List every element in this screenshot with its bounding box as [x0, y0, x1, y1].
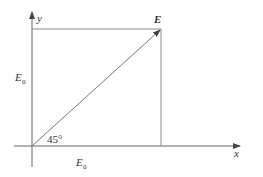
- bottom-component-label: E 0: [75, 156, 87, 171]
- svg-text:E: E: [14, 71, 22, 83]
- svg-text:0: 0: [83, 163, 87, 171]
- y-axis-label: y: [36, 12, 42, 24]
- vector-e-arrow: [32, 30, 160, 146]
- vector-diagram: y x E 45° E 0 E 0: [0, 0, 263, 177]
- vector-e-label: E: [153, 13, 161, 25]
- angle-label: 45°: [47, 133, 62, 145]
- svg-text:0: 0: [22, 78, 26, 86]
- x-axis-label: x: [233, 147, 239, 159]
- left-component-label: E 0: [14, 71, 26, 86]
- svg-text:E: E: [75, 156, 83, 168]
